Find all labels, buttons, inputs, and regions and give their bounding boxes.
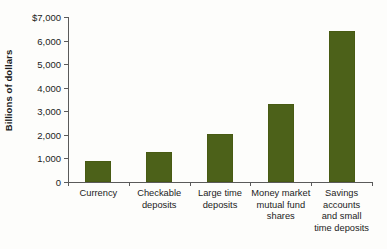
y-axis-tick — [64, 158, 68, 159]
x-axis-tick — [250, 182, 251, 186]
x-axis-category-label: Savings accounts and small time deposits — [303, 188, 380, 234]
x-axis-line — [68, 182, 372, 183]
y-axis-tick-label: $7,000 — [32, 12, 61, 23]
x-axis-tick — [311, 182, 312, 186]
x-axis-tick — [372, 182, 373, 186]
y-axis-tick — [64, 17, 68, 18]
x-axis-labels: CurrencyCheckable depositsLarge time dep… — [68, 188, 372, 249]
y-axis-line — [68, 17, 69, 182]
y-axis-title-label: Billions of dollars — [4, 49, 15, 131]
bar — [207, 134, 233, 182]
y-axis-tick-label: 5,000 — [37, 59, 61, 70]
x-axis-tick — [129, 182, 130, 186]
x-axis-tick — [68, 182, 69, 186]
x-axis-tick — [190, 182, 191, 186]
y-axis-tick-label: 2,000 — [37, 129, 61, 140]
y-axis-tick — [64, 64, 68, 65]
plot-area: 01,0002,0003,0004,0005,0006,000$7,000 — [68, 17, 372, 182]
y-axis-tick-label: 0 — [56, 177, 61, 188]
y-axis-title: Billions of dollars — [0, 0, 18, 180]
bar — [329, 31, 355, 182]
y-axis-tick-label: 1,000 — [37, 153, 61, 164]
y-axis-tick-label: 6,000 — [37, 35, 61, 46]
bar-chart: Billions of dollars 01,0002,0003,0004,00… — [0, 0, 387, 249]
y-axis-tick-label: 3,000 — [37, 106, 61, 117]
bar — [85, 161, 111, 182]
y-axis-tick — [64, 135, 68, 136]
bar — [146, 152, 172, 182]
y-axis-tick — [64, 88, 68, 89]
y-axis-tick — [64, 111, 68, 112]
y-axis-tick-label: 4,000 — [37, 82, 61, 93]
y-axis-tick — [64, 41, 68, 42]
bar — [268, 104, 294, 182]
